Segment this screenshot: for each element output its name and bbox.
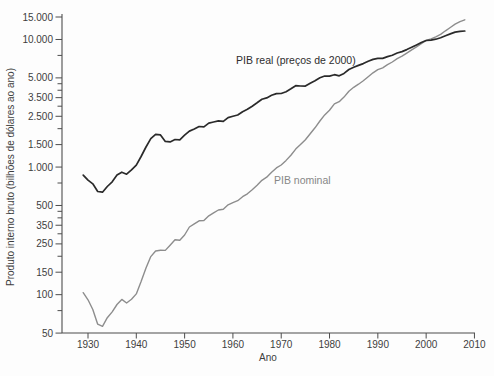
x-tick-label: 2000	[415, 339, 438, 350]
y-tick-label: 500	[36, 200, 53, 211]
x-tick-label: 2010	[463, 339, 486, 350]
y-tick-label: 150	[36, 267, 53, 278]
y-tick-label: 1.500	[28, 139, 53, 150]
pib-real-series-label: PIB real (preços de 2000)	[236, 54, 356, 66]
chart-canvas: 15.00010.0005.0003.5002.5001.5001.000500…	[0, 0, 494, 376]
x-tick-label: 1950	[173, 339, 196, 350]
x-axis-title: Ano	[259, 352, 277, 363]
y-tick-label: 10.000	[22, 34, 53, 45]
y-tick-label: 100	[36, 289, 53, 300]
y-tick-label: 250	[36, 238, 53, 249]
y-tick-label: 5.000	[28, 72, 53, 83]
y-axis-ticks: 15.00010.0005.0003.5002.5001.5001.000500…	[22, 12, 62, 339]
x-tick-label: 1980	[318, 339, 341, 350]
x-tick-label: 1970	[270, 339, 293, 350]
x-tick-label: 1940	[125, 339, 148, 350]
x-axis-ticks: 193019401950196019701980199020002010	[77, 333, 486, 350]
x-tick-label: 1930	[77, 339, 100, 350]
y-tick-label: 3.500	[28, 92, 53, 103]
gdp-log-chart-figure: 15.00010.0005.0003.5002.5001.5001.000500…	[0, 0, 494, 376]
y-tick-label: 15.000	[22, 12, 53, 23]
y-tick-label: 350	[36, 220, 53, 231]
x-tick-label: 1960	[222, 339, 245, 350]
y-tick-label: 1.000	[28, 162, 53, 173]
y-tick-label: 2.500	[28, 111, 53, 122]
x-tick-label: 1990	[367, 339, 390, 350]
y-axis-title: Produto interno bruto (bilhões de dólare…	[5, 68, 16, 286]
y-tick-label: 50	[42, 328, 54, 339]
pib-nominal-series-label: PIB nominal	[274, 174, 331, 186]
